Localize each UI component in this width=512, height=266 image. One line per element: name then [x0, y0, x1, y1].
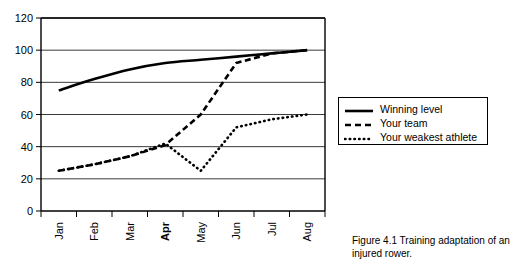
svg-text:60: 60 — [21, 109, 33, 121]
y-axis — [36, 18, 41, 211]
svg-text:May: May — [195, 222, 207, 243]
y-tick-labels: 020406080100120 — [15, 12, 33, 217]
series-line — [59, 50, 308, 171]
figure-container: 020406080100120 JanFebMarAprMayJunJulAug… — [0, 0, 512, 266]
legend-swatch-dotted-icon — [344, 131, 374, 143]
chart-svg: 020406080100120 JanFebMarAprMayJunJulAug — [0, 0, 330, 266]
series-line — [59, 115, 308, 171]
legend-label-winning-level: Winning level — [380, 103, 442, 115]
svg-text:40: 40 — [21, 141, 33, 153]
svg-text:Jul: Jul — [266, 222, 278, 236]
svg-text:100: 100 — [15, 44, 33, 56]
x-tick-labels: JanFebMarAprMayJunJulAug — [53, 221, 314, 242]
svg-text:80: 80 — [21, 76, 33, 88]
grid-lines — [41, 18, 325, 179]
series-line — [59, 50, 308, 90]
legend-item-your-team: Your team — [344, 116, 482, 129]
svg-text:Apr: Apr — [159, 221, 171, 241]
chart-legend: Winning level Your team Your weakest ath… — [338, 97, 488, 145]
svg-text:Aug: Aug — [301, 222, 313, 242]
svg-text:Jan: Jan — [53, 222, 65, 240]
line-chart: 020406080100120 JanFebMarAprMayJunJulAug — [0, 0, 330, 266]
x-axis — [41, 211, 325, 217]
svg-text:120: 120 — [15, 12, 33, 24]
svg-text:20: 20 — [21, 173, 33, 185]
svg-text:Mar: Mar — [124, 222, 136, 241]
figure-caption: Figure 4.1 Training adaptation of an inj… — [352, 234, 510, 260]
svg-text:Jun: Jun — [230, 222, 242, 240]
legend-swatch-solid-icon — [344, 103, 374, 115]
svg-text:Feb: Feb — [88, 222, 100, 241]
legend-label-your-weakest-athlete: Your weakest athlete — [380, 131, 477, 143]
legend-item-your-weakest-athlete: Your weakest athlete — [344, 130, 482, 143]
legend-label-your-team: Your team — [380, 117, 427, 129]
svg-text:0: 0 — [27, 205, 33, 217]
legend-item-winning-level: Winning level — [344, 102, 482, 115]
legend-swatch-dashed-icon — [344, 117, 374, 129]
data-series — [59, 50, 308, 171]
